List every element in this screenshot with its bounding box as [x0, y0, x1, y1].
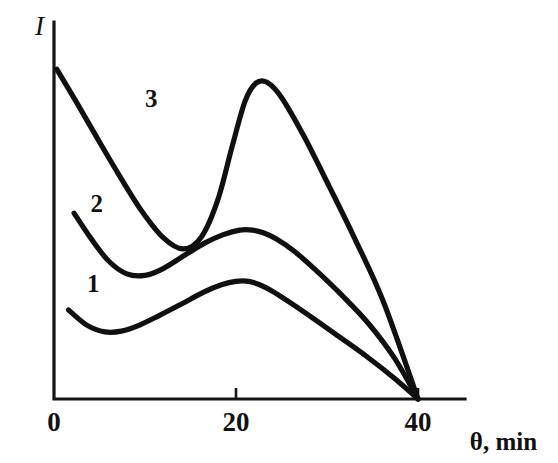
curve-labels-group: 123 — [87, 85, 158, 297]
curve-label-3: 3 — [145, 85, 158, 112]
y-axis-title: I — [34, 11, 46, 41]
curve-3 — [57, 69, 418, 399]
curve-1 — [69, 281, 418, 399]
x-axis-tick-labels: 02040 — [47, 407, 431, 437]
x-axis-tick-marks — [236, 388, 418, 399]
figure-root: 02040 I θ, min 123 — [0, 0, 558, 463]
curve-label-1: 1 — [87, 270, 100, 297]
x-tick-label-20: 20 — [223, 407, 250, 437]
x-tick-label-0: 0 — [47, 407, 61, 437]
x-tick-label-40: 40 — [405, 407, 432, 437]
curve-2 — [74, 213, 418, 399]
kinetic-curves-chart: 02040 I θ, min 123 — [0, 0, 558, 463]
x-axis-title: θ, min — [470, 428, 537, 455]
data-curves-group — [57, 69, 418, 399]
curve-label-2: 2 — [91, 190, 104, 217]
